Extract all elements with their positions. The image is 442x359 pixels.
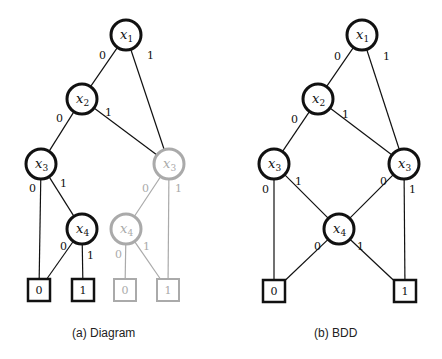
edge-label-bdd-x4-t0: 0 (314, 240, 321, 253)
edge-label-bdd-x3a-x4: 1 (295, 175, 302, 188)
nodes-layer: x1x2x3x3x4x40101x1x2x3x3x401 (26, 20, 419, 302)
node-variable-subscript: 3 (406, 163, 412, 173)
terminal-value: 0 (36, 284, 43, 297)
edge-label-bdd-x2-x3a: 0 (291, 113, 298, 126)
edge-bdd-x1-x3b (367, 49, 400, 149)
terminal-decision-tree-t0a: 0 (28, 279, 50, 301)
node-variable-subscript: 2 (84, 98, 90, 108)
edge-decision-tree-x3a-t0a (39, 179, 41, 279)
edge-label-decision-tree-x2-x3a: 0 (56, 112, 63, 125)
edge-label-decision-tree-x3b-t1b: 1 (175, 182, 182, 195)
edge-label-decision-tree-x4b-t1b: 1 (143, 240, 150, 253)
node-decision-tree-x3b: x3 (154, 149, 184, 179)
edge-label-bdd-x4-t1: 1 (357, 240, 364, 253)
terminal-value: 1 (165, 284, 172, 297)
edge-decision-tree-x1-x3b (131, 49, 165, 150)
terminal-value: 0 (271, 285, 278, 298)
edges-layer (39, 47, 405, 280)
node-bdd-x3b: x3 (389, 149, 419, 179)
node-bdd-x3a: x3 (259, 149, 289, 179)
edge-label-bdd-x3b-x4: 0 (380, 175, 387, 188)
node-decision-tree-x4b: x4 (111, 214, 141, 244)
edge-label-decision-tree-x1-x2: 0 (99, 49, 106, 62)
edge-label-bdd-x2-x3b: 1 (342, 108, 349, 121)
edge-label-bdd-x3b-t1: 1 (409, 183, 416, 196)
terminal-decision-tree-t1b: 1 (157, 279, 179, 301)
node-bdd-x2: x2 (303, 84, 333, 114)
terminal-bdd-t1: 1 (394, 280, 416, 302)
edge-label-decision-tree-x4a-t0a: 0 (60, 240, 67, 253)
edge-label-decision-tree-x1-x3b: 1 (147, 49, 154, 62)
edge-label-decision-tree-x3b-x4b: 0 (142, 182, 149, 195)
edge-bdd-x2-x3b (330, 108, 392, 155)
node-variable-subscript: 4 (341, 228, 347, 238)
edge-label-decision-tree-x3a-x4a: 1 (60, 177, 67, 190)
diagram-canvas: x1x2x3x3x4x40101x1x2x3x3x401 01010101010… (0, 0, 442, 359)
terminal-bdd-t0: 0 (263, 280, 285, 302)
edge-decision-tree-x3b-t1b (168, 179, 169, 279)
node-decision-tree-x2: x2 (67, 84, 97, 114)
node-variable-subscript: 4 (128, 228, 134, 238)
node-bdd-x4: x4 (324, 214, 354, 244)
edge-decision-tree-x4a-t1a (82, 244, 83, 279)
terminal-decision-tree-t1a: 1 (72, 279, 94, 301)
edge-label-decision-tree-x3a-t0a: 0 (29, 182, 36, 195)
node-variable-subscript: 3 (171, 163, 177, 173)
terminal-value: 0 (122, 284, 129, 297)
edge-bdd-x3a-x4 (285, 175, 329, 219)
terminal-value: 1 (80, 284, 87, 297)
caption-decision-diagram: (a) Diagram (72, 326, 135, 340)
node-variable-subscript: 1 (364, 34, 370, 44)
node-bdd-x1: x1 (347, 20, 377, 50)
terminal-value: 1 (402, 285, 409, 298)
node-decision-tree-x1: x1 (111, 20, 141, 50)
node-variable-subscript: 4 (84, 228, 90, 238)
node-variable-subscript: 1 (128, 34, 134, 44)
node-variable-subscript: 3 (43, 163, 49, 173)
node-variable-subscript: 2 (320, 98, 326, 108)
edge-label-bdd-x1-x2: 0 (334, 50, 341, 63)
edge-label-bdd-x3a-t0: 0 (262, 183, 269, 196)
edge-label-decision-tree-x4a-t1a: 1 (87, 249, 94, 262)
node-decision-tree-x4a: x4 (67, 214, 97, 244)
caption-bdd: (b) BDD (314, 326, 357, 340)
node-variable-subscript: 3 (276, 163, 282, 173)
edge-label-bdd-x1-x3b: 1 (383, 50, 390, 63)
edge-label-decision-tree-x4b-t0b: 0 (115, 248, 122, 261)
edge-bdd-x3b-t1 (404, 179, 405, 280)
terminal-decision-tree-t0b: 0 (114, 279, 136, 301)
edge-bdd-x4-t0 (286, 239, 329, 280)
node-decision-tree-x3a: x3 (26, 149, 56, 179)
edge-label-decision-tree-x2-x3b: 1 (105, 106, 112, 119)
edge-decision-tree-x2-x3b (94, 108, 157, 155)
edge-decision-tree-x4b-t0b (125, 244, 126, 279)
